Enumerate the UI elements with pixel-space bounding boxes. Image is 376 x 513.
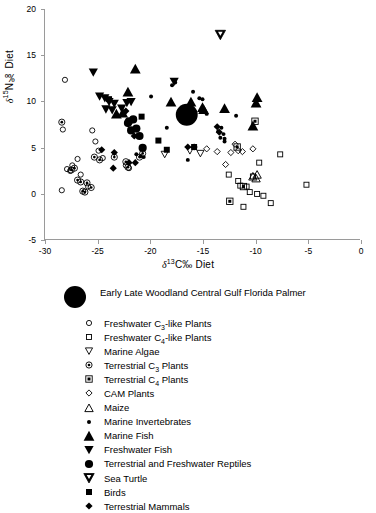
data-point bbox=[59, 119, 65, 125]
series-freshwater-c3-like-plants bbox=[59, 77, 131, 193]
data-point bbox=[97, 157, 103, 163]
legend-item[interactable]: Freshwater C3-like Plants bbox=[0, 316, 376, 330]
data-point bbox=[278, 152, 283, 157]
series-sea-turtle bbox=[215, 30, 225, 39]
legend-item-label-main: Sea Turtle bbox=[104, 473, 147, 484]
legend-item[interactable]: CAM Plants bbox=[0, 386, 376, 400]
legend-item-label-main: Terrestrial Mammals bbox=[104, 501, 190, 512]
legend-item-label: CAM Plants bbox=[104, 388, 154, 399]
y-axis-title-superscript: 15 bbox=[2, 90, 9, 98]
legend-item-label: Marine Invertebrates bbox=[104, 416, 191, 427]
data-point bbox=[261, 193, 266, 198]
legend-item-label-suffix: -like Plants bbox=[165, 318, 211, 329]
legend-item[interactable]: Birds bbox=[0, 485, 376, 499]
legend-marker-open-circle-icon bbox=[80, 316, 98, 330]
legend-item-label: Terrestrial Mammals bbox=[104, 501, 190, 512]
data-point bbox=[123, 87, 134, 97]
data-point bbox=[125, 117, 133, 125]
y-tick-label: 20 bbox=[27, 4, 36, 14]
legend-marker-squared-dot-icon bbox=[80, 372, 98, 386]
legend-item-label-suffix: Plants bbox=[159, 360, 188, 371]
data-point bbox=[130, 64, 141, 74]
y-axis-title-delta: δ bbox=[4, 98, 15, 103]
y-tick-mark bbox=[41, 9, 45, 10]
legend-item[interactable]: Marine Algae bbox=[0, 344, 376, 358]
data-point bbox=[139, 114, 145, 120]
plot-area: -505101520-30-25-20-15-10-50 bbox=[44, 9, 360, 240]
series-terrestrial-c4-plants bbox=[227, 118, 259, 204]
legend-item[interactable]: Freshwater C4-like Plants bbox=[0, 330, 376, 344]
legend-marker-filled-down-triangle-icon bbox=[80, 443, 98, 457]
legend-item[interactable]: Maize bbox=[0, 401, 376, 415]
y-tick-mark bbox=[41, 148, 45, 149]
x-tick-label: -20 bbox=[144, 246, 156, 256]
legend-item-label-main: CAM Plants bbox=[104, 388, 154, 399]
x-tick-label: -25 bbox=[92, 246, 104, 256]
legend-item[interactable]: Terrestrial Mammals bbox=[0, 499, 376, 513]
x-tick-label: -15 bbox=[197, 246, 209, 256]
legend-item-label-main: Marine Algae bbox=[104, 346, 159, 357]
legend-item[interactable]: Terrestrial C4 Plants bbox=[0, 372, 376, 386]
legend-item-label: Birds bbox=[104, 487, 126, 498]
legend-item-label-suffix: -like Plants bbox=[165, 332, 211, 343]
legend-item-label: Marine Fish bbox=[104, 430, 154, 441]
data-point bbox=[89, 69, 98, 77]
legend-item[interactable]: Freshwater Fish bbox=[0, 443, 376, 457]
y-tick-label: 5 bbox=[31, 143, 36, 153]
data-point bbox=[59, 188, 64, 193]
legend-item-label-main: Freshwater C bbox=[104, 332, 161, 343]
legend-item-label-main: Marine Fish bbox=[104, 430, 154, 441]
data-point bbox=[257, 160, 262, 165]
data-point bbox=[98, 146, 105, 153]
legend-marker-open-down-triangle-icon bbox=[80, 344, 98, 358]
legend-item-label-main: Terrestrial and Freshwater Reptiles bbox=[104, 458, 251, 469]
data-point bbox=[60, 127, 65, 132]
y-tick-label: 10 bbox=[27, 96, 36, 106]
legend-item-label-main: Maize bbox=[104, 402, 129, 413]
data-point bbox=[78, 172, 83, 177]
legend-item-label-main: Freshwater Fish bbox=[104, 444, 172, 455]
data-point bbox=[204, 146, 210, 152]
y-axis-title-rest: N‰ Diet bbox=[4, 50, 15, 90]
legend-item[interactable]: Sea Turtle bbox=[0, 471, 376, 485]
legend-marker-filled-diamond-icon bbox=[80, 499, 98, 513]
data-point bbox=[219, 103, 230, 113]
x-tick-mark bbox=[150, 240, 151, 244]
data-point bbox=[234, 114, 238, 118]
legend-main-marker-glyph bbox=[63, 285, 87, 309]
data-point bbox=[247, 190, 252, 195]
data-point bbox=[149, 94, 153, 98]
data-point bbox=[228, 149, 234, 155]
legend-item[interactable]: Terrestrial C3 Plants bbox=[0, 358, 376, 372]
data-point bbox=[197, 150, 204, 156]
x-tick-mark bbox=[98, 240, 99, 244]
legend-item-label-main: Freshwater C bbox=[104, 318, 161, 329]
data-points-layer bbox=[45, 9, 360, 239]
legend-marker-open-square-icon bbox=[80, 330, 98, 344]
series-early-late-woodland-central-gulf-florida-palmer bbox=[176, 104, 198, 126]
legend-item-label-main: Birds bbox=[104, 487, 126, 498]
legend-item[interactable]: Marine Fish bbox=[0, 429, 376, 443]
legend-marker-filled-down-triangle-outline-icon bbox=[80, 471, 98, 485]
data-point bbox=[62, 77, 67, 82]
legend-items: Freshwater C3-like PlantsFreshwater C4-l… bbox=[0, 316, 376, 513]
legend-marker-small-dot-icon bbox=[80, 415, 98, 429]
x-tick-mark bbox=[308, 240, 309, 244]
legend-marker-circled-dot-icon bbox=[80, 358, 98, 372]
legend-item-label: Freshwater C3-like Plants bbox=[104, 318, 211, 331]
data-point bbox=[139, 144, 147, 152]
x-axis-title-superscript: 13 bbox=[167, 258, 175, 265]
data-point bbox=[241, 204, 246, 209]
legend-item-label-main: Marine Invertebrates bbox=[104, 416, 191, 427]
legend-item-label: Terrestrial C4 Plants bbox=[104, 374, 188, 387]
data-point bbox=[134, 152, 138, 156]
legend-item[interactable]: Marine Invertebrates bbox=[0, 415, 376, 429]
legend-marker-filled-up-triangle-icon bbox=[80, 429, 98, 443]
legend-item[interactable]: Terrestrial and Freshwater Reptiles bbox=[0, 457, 376, 471]
y-tick-label: -5 bbox=[28, 235, 36, 245]
legend-item-label: Freshwater C4-like Plants bbox=[104, 332, 211, 345]
x-tick-label: -5 bbox=[305, 246, 313, 256]
data-point bbox=[250, 146, 256, 152]
y-tick-label: 15 bbox=[27, 50, 36, 60]
data-point bbox=[106, 96, 112, 102]
